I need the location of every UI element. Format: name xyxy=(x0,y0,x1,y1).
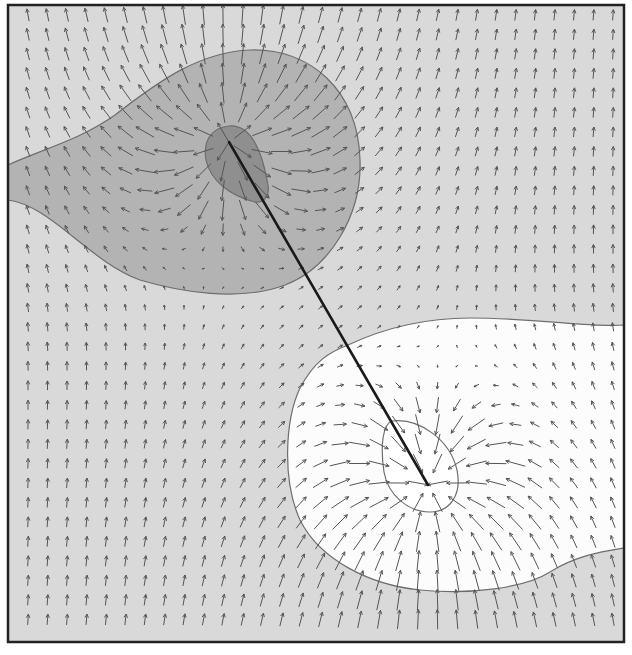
field-arrow-icon xyxy=(203,287,204,290)
positive-potential-region xyxy=(288,318,624,592)
dipole-field-diagram xyxy=(0,0,632,655)
